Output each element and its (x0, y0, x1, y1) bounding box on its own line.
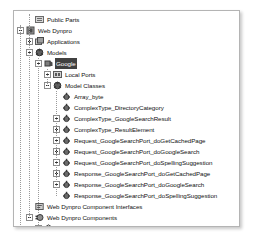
models-icon (35, 48, 44, 57)
collapse-icon[interactable] (17, 27, 24, 34)
tree-node-row[interactable]: ComplexType_ResultElement (14, 124, 239, 135)
tree-view[interactable]: Public PartsWeb DynproApplicationsModels… (14, 11, 239, 227)
component-interfaces-icon (35, 202, 44, 211)
tree-node-label[interactable]: Web Dynpro Components (46, 212, 118, 223)
components-icon (35, 213, 44, 222)
tree-node-row[interactable]: ComplexType_DirectoryCategory (14, 102, 239, 113)
tree-node-row[interactable]: ComplexType_GoogleSearchResult (14, 113, 239, 124)
expand-icon[interactable] (53, 159, 60, 166)
tree-node-label[interactable]: Models (46, 47, 68, 58)
expander-placeholder (53, 104, 60, 111)
tree-node-label[interactable]: Local Ports (64, 69, 96, 80)
component-icon (44, 224, 53, 227)
class-icon (62, 125, 71, 134)
tree-node-row[interactable]: Models (14, 47, 239, 58)
tree-node-row[interactable]: Model Classes (14, 80, 239, 91)
expand-icon[interactable] (35, 225, 42, 227)
tree-node-row[interactable]: Response_GoogleSearchPort_doGetCachedPag… (14, 168, 239, 179)
project-explorer-panel[interactable]: Public PartsWeb DynproApplicationsModels… (13, 10, 240, 227)
tree-node-row[interactable]: GoogleSearchComp (14, 223, 239, 227)
model-classes-icon (53, 81, 62, 90)
tree-node-label[interactable]: Web Dynpro (37, 25, 73, 36)
class-icon (62, 92, 71, 101)
tree-node-label[interactable]: Web Dynpro Component Interfaces (46, 201, 143, 212)
expander-placeholder (26, 16, 33, 23)
expand-icon[interactable] (53, 126, 60, 133)
tree-node-row[interactable]: Applications (14, 36, 239, 47)
tree-node-row[interactable]: Response_GoogleSearchPort_doSpellingSugg… (14, 190, 239, 201)
collapse-icon[interactable] (26, 214, 33, 221)
web-dynpro-icon (26, 26, 35, 35)
class-icon (62, 147, 71, 156)
tree-node-row[interactable]: Request_GoogleSearchPort_doGoogleSearch (14, 146, 239, 157)
expand-icon[interactable] (53, 115, 60, 122)
collapse-icon[interactable] (44, 82, 51, 89)
tree-node-row[interactable]: Google (14, 58, 239, 69)
tree-node-label[interactable]: Response_GoogleSearchPort_doGoogleSearch (73, 179, 205, 190)
local-ports-icon (53, 70, 62, 79)
expand-icon[interactable] (26, 38, 33, 45)
tree-node-label[interactable]: Response_GoogleSearchPort_doGetCachedPag… (73, 168, 211, 179)
tree-node-label[interactable]: Request_GoogleSearchPort_doSpellingSugge… (73, 157, 213, 168)
class-icon (62, 191, 71, 200)
class-icon (62, 180, 71, 189)
public-parts-icon (35, 15, 44, 24)
tree-node-row[interactable]: Request_GoogleSearchPort_doGetCachedPage (14, 135, 239, 146)
tree-node-row[interactable]: Request_GoogleSearchPort_doSpellingSugge… (14, 157, 239, 168)
collapse-icon[interactable] (35, 60, 42, 67)
tree-node-row[interactable]: Web Dynpro Components (14, 212, 239, 223)
expand-icon[interactable] (53, 137, 60, 144)
tree-node-row[interactable]: Public Parts (14, 14, 239, 25)
tree-node-label[interactable]: GoogleSearchComp (55, 223, 112, 227)
class-icon (62, 158, 71, 167)
tree-node-label[interactable]: ComplexType_GoogleSearchResult (73, 113, 172, 124)
screenshot-root: Public PartsWeb DynproApplicationsModels… (0, 0, 253, 244)
tree-node-label[interactable]: Response_GoogleSearchPort_doSpellingSugg… (73, 190, 218, 201)
tree-node-label[interactable]: Request_GoogleSearchPort_doGoogleSearch (73, 146, 200, 157)
class-icon (62, 103, 71, 112)
expander-placeholder (26, 203, 33, 210)
tree-node-row[interactable]: Web Dynpro (14, 25, 239, 36)
tree-node-label[interactable]: Public Parts (46, 14, 80, 25)
model-icon (44, 59, 53, 68)
collapse-icon[interactable] (26, 49, 33, 56)
tree-node-label[interactable]: Model Classes (64, 80, 106, 91)
tree-node-row[interactable]: Web Dynpro Component Interfaces (14, 201, 239, 212)
expand-icon[interactable] (53, 181, 60, 188)
expand-icon[interactable] (53, 170, 60, 177)
tree-node-label[interactable]: Array_byte (73, 91, 104, 102)
tree-node-label[interactable]: ComplexType_ResultElement (73, 124, 155, 135)
expand-icon[interactable] (53, 148, 60, 155)
expander-placeholder (53, 192, 60, 199)
tree-node-row[interactable]: Array_byte (14, 91, 239, 102)
class-icon (62, 136, 71, 145)
class-icon (62, 114, 71, 123)
tree-node-label[interactable]: Request_GoogleSearchPort_doGetCachedPage (73, 135, 206, 146)
tree-node-row[interactable]: Response_GoogleSearchPort_doGoogleSearch (14, 179, 239, 190)
tree-node-label[interactable]: ComplexType_DirectoryCategory (73, 102, 165, 113)
expand-icon[interactable] (44, 71, 51, 78)
applications-icon (35, 37, 44, 46)
tree-node-label[interactable]: Google (55, 58, 77, 69)
tree-node-label[interactable]: Applications (46, 36, 81, 47)
tree-node-row[interactable]: Local Ports (14, 69, 239, 80)
class-icon (62, 169, 71, 178)
expander-placeholder (53, 93, 60, 100)
